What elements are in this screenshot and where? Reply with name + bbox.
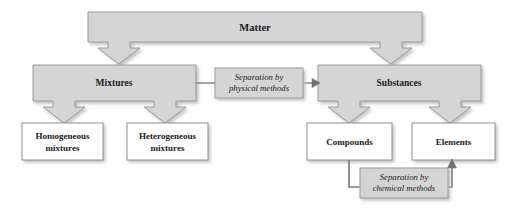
node-matter-label: Matter <box>239 22 271 33</box>
classification-of-matter-diagram: Matter Mixtures Substances Separation by… <box>0 0 510 218</box>
node-matter[interactable] <box>88 12 422 64</box>
diagram-canvas: Matter Mixtures Substances Separation by… <box>0 0 510 218</box>
node-elements-label: Elements <box>436 137 472 147</box>
node-homogeneous-mixtures-label-line2: mixtures <box>46 143 80 153</box>
node-heterogeneous-mixtures[interactable] <box>127 123 208 160</box>
connector-label-physical-line1: Separation by <box>235 72 284 82</box>
node-heterogeneous-mixtures-label-line1: Heterogeneous <box>139 131 196 141</box>
node-compounds-label: Compounds <box>326 137 373 147</box>
node-homogeneous-mixtures-label-line1: Homogeneous <box>36 131 90 141</box>
node-substances[interactable] <box>318 65 481 123</box>
connector-label-chemical-line2: chemical methods <box>373 183 436 193</box>
connector-label-chemical-line1: Separation by <box>380 172 429 182</box>
node-homogeneous-mixtures[interactable] <box>22 123 103 160</box>
connector-label-physical-line2: physical methods <box>228 83 290 93</box>
node-mixtures-label: Mixtures <box>96 78 133 88</box>
node-substances-label: Substances <box>377 78 422 88</box>
node-mixtures[interactable] <box>33 65 196 123</box>
node-heterogeneous-mixtures-label-line2: mixtures <box>151 143 185 153</box>
